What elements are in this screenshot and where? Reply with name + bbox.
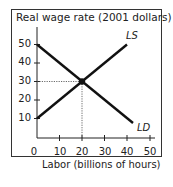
x-axis-title: Labor (billions of hours) [42,159,161,170]
x-tick-20: 20 [72,146,92,157]
y-tick-20: 20 [17,93,31,104]
y-tick-10: 10 [17,112,31,123]
y-tick-40: 40 [17,56,31,67]
y-tick-50: 50 [17,38,31,49]
x-tick-10: 10 [50,146,70,157]
ls-label: LS [126,30,138,41]
y-tick-30: 30 [17,75,31,86]
ld-label: LD [137,122,150,133]
ld-curve [37,45,133,124]
x-tick-40: 40 [117,146,137,157]
x-tick-0: 0 [24,146,44,157]
x-tick-30: 30 [95,146,115,157]
x-tick-50: 50 [140,146,160,157]
